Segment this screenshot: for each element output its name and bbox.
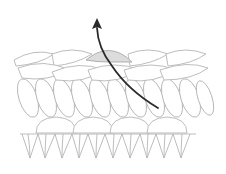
row-3-v-stitches: [20, 134, 196, 158]
row-1-stitches: [13, 76, 217, 120]
crochet-diagram: [0, 0, 226, 174]
row-2-bumps: [36, 117, 187, 133]
stitch-illustration: [0, 0, 226, 174]
highlighted-top-loop: [86, 50, 132, 62]
